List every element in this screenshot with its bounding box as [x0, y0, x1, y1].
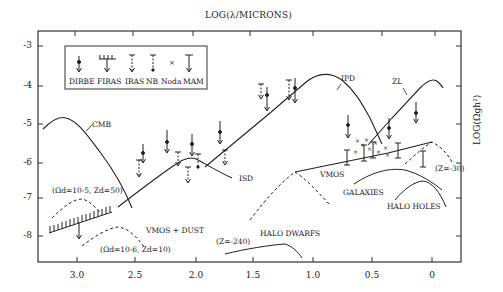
svg-text:×: ×	[364, 136, 369, 143]
svg-text:×: ×	[367, 145, 372, 152]
svg-text:×: ×	[376, 148, 381, 155]
vmos-z30-curve	[405, 142, 452, 164]
x-ticks-top	[75, 31, 435, 36]
label-cmb: CMB	[92, 120, 111, 129]
x-tick-label: 2.0	[181, 270, 211, 280]
x-axis-title: LOG(λ/MICRONS)	[205, 10, 292, 20]
noda-points: ××× ××× ×××	[353, 136, 390, 158]
x-tick-label: 2.5	[120, 270, 150, 280]
isd-curve	[118, 158, 232, 207]
legend-label-noda: Noda	[161, 77, 181, 86]
label-vmos: VMOS	[320, 170, 344, 179]
label-z30: (Z=-30)	[435, 164, 464, 173]
ipd-pointer	[337, 84, 341, 90]
label-dust-omega6: (Ωd=10-6, Zd=10)	[100, 245, 171, 254]
zl-pointer	[403, 88, 407, 95]
chart-plot: ×	[0, 0, 503, 292]
x-ticks-bottom	[77, 257, 432, 262]
label-isd: ISD	[239, 174, 253, 183]
x-tick-label: 1.5	[238, 270, 268, 280]
legend-label-mam: MAM	[183, 77, 204, 86]
x-tick-label: 0	[417, 270, 447, 280]
label-vmos-dust: VMOS + DUST	[146, 226, 204, 235]
halo-dwarfs-curve	[225, 244, 302, 258]
y-tick-label: -7	[12, 192, 32, 202]
y-axis-title: LOG(Ωgh²)	[472, 95, 482, 145]
legend-label-firas: FIRAS	[97, 77, 121, 86]
label-halo-holes: HALO HOLES	[387, 202, 441, 211]
y-ticks-right	[456, 46, 461, 236]
y-ticks-left	[38, 46, 43, 236]
svg-text:×: ×	[385, 151, 390, 158]
label-galaxies: GALAXIES	[343, 188, 384, 197]
y-tick-label: -4	[12, 80, 32, 90]
zl-curve	[368, 80, 443, 145]
label-dust-omega5: (Ωd=10-5, Zd=50)	[52, 186, 123, 195]
x-tick-label: 0.5	[357, 270, 387, 280]
legend-label-iras: IRAS	[125, 77, 144, 86]
vmos-z240-curve	[250, 172, 330, 220]
label-z240: (Z=-240)	[216, 237, 250, 246]
y-tick-label: -5	[12, 118, 32, 128]
y-tick-label: -8	[12, 230, 32, 240]
y-tick-label: -3	[12, 40, 32, 50]
x-tick-label: 3.0	[62, 270, 92, 280]
svg-text:×: ×	[353, 148, 358, 155]
legend-label-nb: NB	[146, 77, 158, 86]
label-zl: ZL	[392, 77, 402, 86]
label-ipd: IPD	[341, 74, 355, 83]
dust-omega5-curve	[52, 199, 100, 218]
x-tick-label: 1.0	[298, 270, 328, 280]
noda-symbol-icon: ×	[169, 59, 175, 67]
galaxies-curve	[354, 169, 442, 190]
legend-label-dirbe: DIRBE	[69, 77, 95, 86]
label-halo-dwarfs: HALO DWARFS	[260, 229, 320, 238]
svg-text:×: ×	[383, 144, 388, 151]
y-tick-label: -6	[12, 157, 32, 167]
firas-limit	[49, 206, 112, 239]
